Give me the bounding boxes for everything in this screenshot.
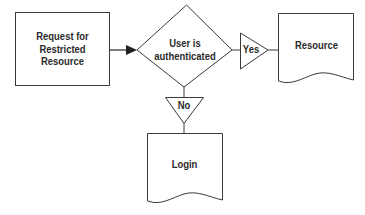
request-label-line1: Request for bbox=[20, 30, 106, 43]
resource-label: Resource bbox=[283, 39, 351, 52]
decision-label-line1: User is bbox=[142, 37, 228, 50]
yes-label: Yes bbox=[241, 43, 261, 56]
login-label: Login bbox=[151, 158, 219, 171]
request-label-line2: Restricted bbox=[20, 43, 106, 56]
decision-label-line2: authenticated bbox=[142, 50, 228, 63]
no-label: No bbox=[173, 99, 195, 112]
decision-label: User is authenticated bbox=[142, 37, 228, 62]
request-label-line3: Resource bbox=[20, 55, 106, 68]
arrowhead-icon bbox=[126, 45, 137, 55]
request-label: Request for Restricted Resource bbox=[20, 30, 106, 68]
